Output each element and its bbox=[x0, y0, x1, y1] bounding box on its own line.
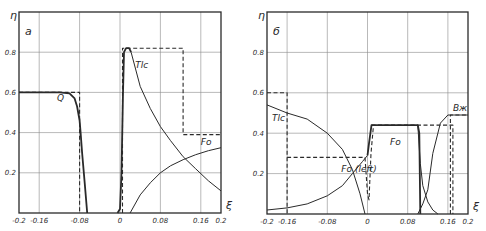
x-tick-label: 0.2 bbox=[462, 218, 474, 226]
curve-label: Fo bbox=[390, 137, 401, 147]
y-tick-label: 0.4 bbox=[5, 129, 16, 137]
panel-label: a bbox=[25, 25, 32, 38]
x-tick-label: -0.08 bbox=[71, 217, 90, 225]
x-tick-label: 0 bbox=[365, 218, 370, 226]
panel-label: б bbox=[273, 25, 280, 38]
series-tlc-ideal--line bbox=[267, 93, 287, 214]
x-tick-label: -0.16 bbox=[278, 218, 297, 226]
figure: -0.2-0.16-0.0800.080.160.20.20.40.60.8ηξ… bbox=[0, 0, 486, 231]
y-axis-label: η bbox=[10, 9, 17, 22]
x-tick-label: -0.08 bbox=[318, 218, 337, 226]
curve-label: Bж bbox=[453, 103, 468, 113]
curve-label: Tlc bbox=[272, 113, 285, 123]
chart-panel-b: -0.2-0.16-0.0800.080.160.20.20.40.60.8ηξ… bbox=[253, 9, 480, 226]
series-tlc-line bbox=[118, 48, 132, 213]
curve-label: Tlc bbox=[135, 60, 148, 70]
curve-label: Fo (left) bbox=[341, 164, 376, 174]
x-tick-label: -0.2 bbox=[260, 218, 274, 226]
x-tick-label: 0.16 bbox=[440, 218, 456, 226]
x-axis-label: ξ bbox=[225, 199, 233, 212]
series-q-line bbox=[19, 92, 87, 213]
chart-panel-a: -0.2-0.16-0.0800.080.160.20.20.40.60.8ηξ… bbox=[5, 9, 233, 225]
y-tick-label: 0.8 bbox=[5, 49, 17, 57]
y-axis-label: η bbox=[258, 9, 265, 22]
series-fo-ideal--line bbox=[372, 125, 453, 214]
x-tick-label: -0.2 bbox=[12, 217, 26, 225]
series-tlc-ideal--line bbox=[123, 48, 222, 213]
curve-label: Q bbox=[57, 93, 64, 103]
y-tick-label: 0.8 bbox=[253, 49, 265, 57]
x-tick-label: 0.16 bbox=[193, 217, 209, 225]
series-tlc-line bbox=[131, 52, 221, 191]
x-tick-label: 0.2 bbox=[215, 217, 227, 225]
curve-label: Fo bbox=[201, 137, 212, 147]
y-tick-label: 0.2 bbox=[253, 170, 265, 178]
x-tick-label: 0 bbox=[118, 217, 123, 225]
y-tick-label: 0.6 bbox=[5, 89, 17, 97]
x-tick-label: -0.16 bbox=[30, 217, 49, 225]
y-tick-label: 0.4 bbox=[253, 130, 264, 138]
y-tick-label: 0.6 bbox=[253, 89, 265, 97]
series-q-ideal--line bbox=[19, 92, 80, 213]
y-tick-label: 0.2 bbox=[5, 169, 17, 177]
x-tick-label: 0.08 bbox=[153, 217, 169, 225]
series-bж-line bbox=[418, 115, 468, 214]
x-axis-label: ξ bbox=[472, 200, 480, 213]
x-tick-label: 0.08 bbox=[400, 218, 416, 226]
